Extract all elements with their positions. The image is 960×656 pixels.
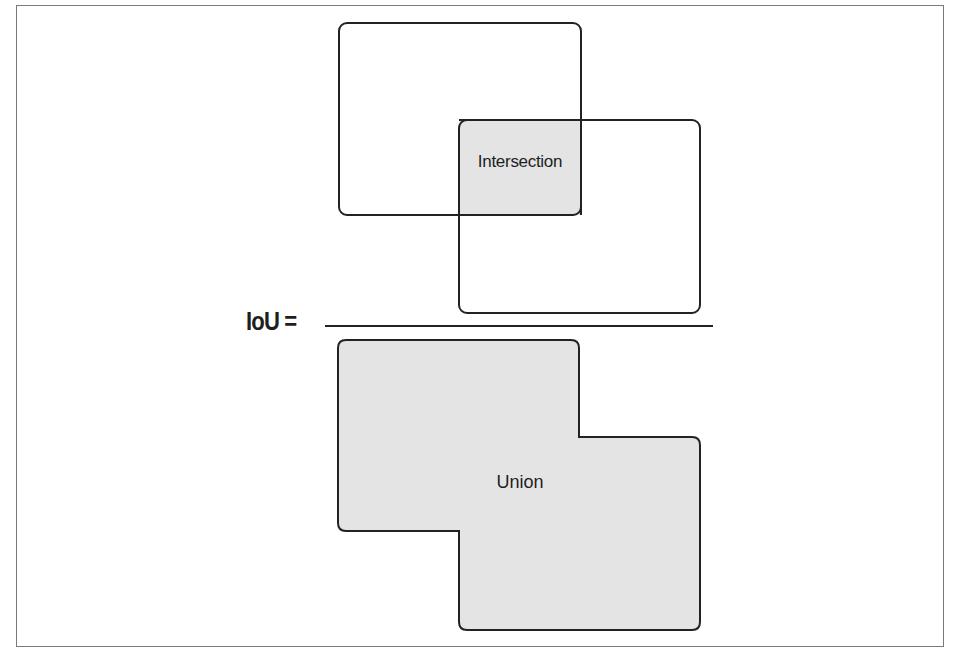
intersection-label: Intersection xyxy=(459,152,581,172)
iou-diagram xyxy=(0,0,960,656)
union-label: Union xyxy=(459,472,581,493)
iou-formula-label: IoU = xyxy=(246,306,296,337)
